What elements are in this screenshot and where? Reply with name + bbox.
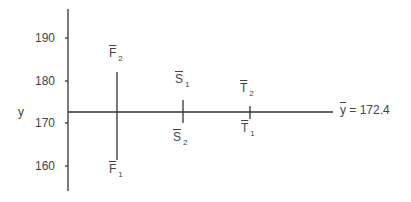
y-axis-label: y xyxy=(18,106,24,118)
label-s1: S1 xyxy=(175,73,189,85)
label-f1: F1 xyxy=(109,163,123,175)
label-f2: F2 xyxy=(109,47,123,59)
tick-label-180: 180 xyxy=(35,75,55,87)
label-t1: T1 xyxy=(241,122,255,134)
tick-label-190: 190 xyxy=(35,32,55,44)
diagram-canvas xyxy=(0,0,411,202)
label-s2: S2 xyxy=(173,131,187,143)
tick-label-170: 170 xyxy=(35,117,55,129)
tick-label-160: 160 xyxy=(35,160,55,172)
label-t2: T2 xyxy=(240,82,254,94)
mean-line-label: y = 172.4 xyxy=(340,104,390,116)
